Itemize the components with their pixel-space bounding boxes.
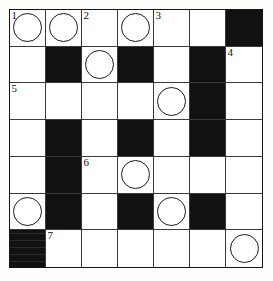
highlight-circle-icon [85, 50, 114, 79]
clue-number: 2 [84, 10, 90, 21]
crossword-cell[interactable] [46, 10, 82, 47]
crossword-cell[interactable] [82, 194, 118, 231]
crossword-cell[interactable] [82, 83, 118, 120]
crossword-cell[interactable] [10, 47, 46, 84]
crossword-cell[interactable] [82, 120, 118, 157]
clue-number: 7 [48, 230, 54, 241]
crossword-cell[interactable]: 1 [10, 10, 46, 47]
highlight-circle-icon [13, 197, 42, 226]
crossword-cell[interactable] [226, 83, 262, 120]
crossword-cell[interactable] [118, 83, 154, 120]
blocked-square [118, 194, 154, 231]
crossword-cell[interactable] [154, 120, 190, 157]
crossword-cell[interactable]: 5 [10, 83, 46, 120]
crossword-cell[interactable] [118, 10, 154, 47]
crossword-cell[interactable] [10, 157, 46, 194]
crossword-grid[interactable]: 1234567 [9, 9, 263, 268]
crossword-cell[interactable] [118, 230, 154, 267]
clue-number: 4 [228, 47, 234, 58]
crossword-cell[interactable] [154, 47, 190, 84]
blocked-square [190, 47, 226, 84]
clue-number: 6 [84, 157, 90, 168]
crossword-cell[interactable] [82, 47, 118, 84]
crossword-cell[interactable] [154, 83, 190, 120]
highlight-circle-icon [157, 197, 186, 226]
crossword-cell[interactable] [154, 157, 190, 194]
crossword-cell[interactable] [10, 120, 46, 157]
crossword-cell[interactable] [118, 157, 154, 194]
highlight-circle-icon [157, 87, 186, 116]
crossword-cell[interactable]: 2 [82, 10, 118, 47]
crossword-cell[interactable] [190, 10, 226, 47]
crossword-cell[interactable] [190, 157, 226, 194]
clue-number: 1 [12, 10, 18, 21]
highlight-circle-icon [13, 13, 42, 42]
crossword-cell[interactable]: 7 [46, 230, 82, 267]
blocked-square [46, 120, 82, 157]
crossword-cell[interactable]: 6 [82, 157, 118, 194]
crossword-cell[interactable] [226, 230, 262, 267]
crossword-cell[interactable] [154, 194, 190, 231]
blocked-square [190, 120, 226, 157]
crossword-cell[interactable] [10, 194, 46, 231]
blocked-square [46, 157, 82, 194]
highlight-circle-icon [121, 160, 150, 189]
clue-number: 5 [12, 83, 18, 94]
blocked-square [118, 47, 154, 84]
crossword-cell[interactable] [190, 230, 226, 267]
highlight-circle-icon [49, 13, 78, 42]
blocked-square [46, 194, 82, 231]
blocked-square [190, 83, 226, 120]
crossword-cell[interactable] [226, 157, 262, 194]
blocked-square [46, 47, 82, 84]
crossword-cell[interactable] [226, 120, 262, 157]
blocked-square [190, 194, 226, 231]
blocked-square [226, 10, 262, 47]
crossword-cell[interactable] [82, 230, 118, 267]
highlight-circle-icon [121, 13, 150, 42]
crossword-cell[interactable] [226, 194, 262, 231]
blocked-square [118, 120, 154, 157]
crossword-cell[interactable] [46, 83, 82, 120]
highlight-circle-icon [230, 234, 259, 263]
crossword-cell[interactable] [154, 230, 190, 267]
blocked-square [10, 230, 46, 267]
clue-number: 3 [156, 10, 162, 21]
crossword-cell[interactable]: 4 [226, 47, 262, 84]
crossword-cell[interactable]: 3 [154, 10, 190, 47]
crossword-puzzle: 1234567 [0, 0, 273, 281]
